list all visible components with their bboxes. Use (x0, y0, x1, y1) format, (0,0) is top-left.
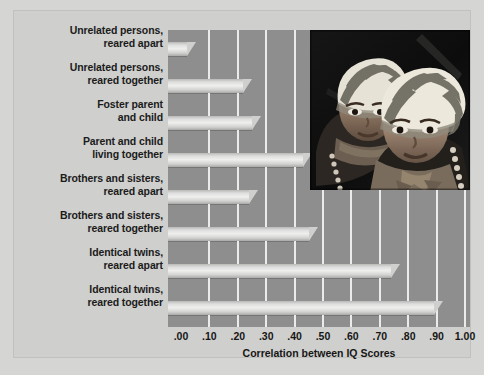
axis-tick-mark (237, 56, 239, 67)
chart-panel: Unrelated persons,reared apartUnrelated … (13, 10, 471, 358)
axis-tick-mark (294, 167, 296, 178)
axis-tick-mark (379, 278, 381, 289)
x-tick-label: .60 (344, 330, 359, 342)
axis-tick-mark (294, 278, 296, 289)
bar (168, 79, 243, 93)
axis-tick-mark (350, 241, 352, 252)
axis-tick-mark (208, 241, 210, 252)
bar (168, 42, 187, 56)
axis-tick-mark (436, 278, 438, 289)
category-label-line2: reared together (27, 222, 163, 235)
axis-tick-mark (350, 278, 352, 289)
axis-tick-mark (436, 204, 438, 215)
category-label-line1: Parent and child (27, 135, 163, 148)
x-tick-label: .20 (230, 330, 245, 342)
axis-tick-mark (208, 204, 210, 215)
axis-tick-mark (265, 93, 267, 104)
axis-tick-mark (294, 93, 296, 104)
category-label-line1: Brothers and sisters, (27, 172, 163, 185)
axis-tick-mark (407, 204, 409, 215)
axis-tick-mark (265, 241, 267, 252)
axis-tick-mark (208, 93, 210, 104)
axis-tick-mark (322, 278, 324, 289)
axis-tick-mark (265, 278, 267, 289)
category-label-line2: reared apart (27, 259, 163, 272)
bar (168, 116, 252, 130)
x-tick-label: .10 (202, 330, 217, 342)
axis-tick-mark (237, 278, 239, 289)
bar (168, 264, 391, 278)
bar (168, 153, 303, 167)
axis-tick-mark (237, 204, 239, 215)
axis-tick-mark (407, 241, 409, 252)
category-label-line2: reared apart (27, 185, 163, 198)
category-label: Unrelated persons,reared together (27, 61, 163, 86)
axis-tick-mark (322, 204, 324, 215)
category-label-line2: reared apart (27, 37, 163, 50)
bar (168, 227, 309, 241)
category-label: Foster parentand child (27, 98, 163, 123)
category-label: Identical twins,reared together (27, 283, 163, 308)
category-label-line2: and child (27, 111, 163, 124)
axis-tick-mark (265, 204, 267, 215)
twin-children-photo (310, 30, 470, 190)
axis-tick-mark (464, 241, 466, 252)
axis-tick-mark (379, 204, 381, 215)
x-tick-label: .40 (287, 330, 302, 342)
axis-tick-mark (265, 56, 267, 67)
axis-tick-mark (407, 278, 409, 289)
axis-tick-mark (237, 315, 239, 326)
axis-tick-mark (208, 315, 210, 326)
bar (168, 301, 434, 315)
category-label: Parent and childliving together (27, 135, 163, 160)
axis-tick-mark (237, 167, 239, 178)
axis-tick-mark (294, 130, 296, 141)
bar-row (168, 289, 470, 326)
axis-tick-mark (294, 204, 296, 215)
axis-tick-mark (294, 241, 296, 252)
category-label: Identical twins,reared apart (27, 246, 163, 271)
axis-tick-mark (294, 315, 296, 326)
bar-row (168, 215, 470, 252)
axis-tick-mark (208, 56, 210, 67)
category-label-line1: Identical twins, (27, 283, 163, 296)
axis-tick-mark (265, 130, 267, 141)
axis-tick-mark (379, 315, 381, 326)
category-label-line1: Brothers and sisters, (27, 209, 163, 222)
x-axis-label: Correlation between IQ Scores (168, 347, 470, 359)
axis-tick-mark (208, 130, 210, 141)
axis-tick-mark (350, 315, 352, 326)
x-tick-label: .30 (259, 330, 274, 342)
axis-tick-mark (237, 93, 239, 104)
category-label-line1: Foster parent (27, 98, 163, 111)
category-label-line1: Identical twins, (27, 246, 163, 259)
chart-screenshot: Unrelated persons,reared apartUnrelated … (0, 0, 484, 375)
x-axis-tick-labels: .00.10.20.30.40.50.60.70.80.901.00 (168, 330, 478, 346)
category-label-column: Unrelated persons,reared apartUnrelated … (27, 30, 163, 327)
category-label-line1: Unrelated persons, (27, 24, 163, 37)
category-label: Unrelated persons,reared apart (27, 24, 163, 49)
axis-tick-mark (350, 204, 352, 215)
axis-tick-mark (464, 278, 466, 289)
bar-row (168, 252, 470, 289)
x-tick-label: .90 (429, 330, 444, 342)
x-tick-label: .50 (316, 330, 331, 342)
axis-tick-mark (237, 241, 239, 252)
axis-tick-mark (464, 315, 466, 326)
axis-tick-mark (407, 315, 409, 326)
category-label: Brothers and sisters,reared together (27, 209, 163, 234)
bar (168, 190, 249, 204)
axis-tick-mark (208, 167, 210, 178)
axis-tick-mark (322, 241, 324, 252)
axis-tick-mark (436, 315, 438, 326)
x-tick-label: 1.00 (455, 330, 475, 342)
category-label-line1: Unrelated persons, (27, 61, 163, 74)
axis-tick-mark (436, 241, 438, 252)
axis-tick-mark (265, 315, 267, 326)
axis-tick-mark (322, 315, 324, 326)
category-label-line2: living together (27, 148, 163, 161)
axis-tick-mark (208, 278, 210, 289)
x-tick-label: .00 (174, 330, 189, 342)
category-label: Brothers and sisters,reared apart (27, 172, 163, 197)
axis-tick-mark (379, 241, 381, 252)
